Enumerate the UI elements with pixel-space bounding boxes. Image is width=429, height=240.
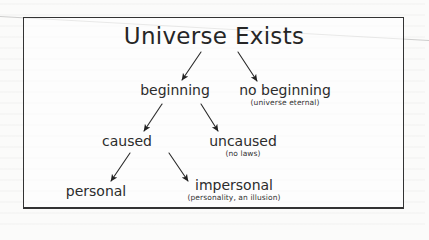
node-no-beginning-note: (universe eternal) bbox=[239, 99, 331, 107]
node-impersonal: impersonal (personality, an illusion) bbox=[187, 178, 280, 202]
arrow-title-to-beginning bbox=[182, 52, 201, 80]
arrow-beginning-to-uncaused bbox=[201, 104, 218, 131]
node-beginning: beginning bbox=[140, 83, 210, 97]
node-caused-label: caused bbox=[102, 134, 152, 148]
arrow-caused-to-personal bbox=[111, 153, 130, 181]
node-caused: caused bbox=[102, 134, 152, 148]
arrow-title-to-no-beginning bbox=[238, 52, 257, 81]
arrow-beginning-to-caused bbox=[144, 104, 162, 131]
node-no-beginning: no beginning (universe eternal) bbox=[239, 83, 331, 107]
node-impersonal-label: impersonal bbox=[187, 178, 280, 192]
arrow-caused-to-impersonal bbox=[169, 153, 188, 181]
node-uncaused-label: uncaused bbox=[209, 134, 277, 148]
node-beginning-label: beginning bbox=[140, 83, 210, 97]
node-no-beginning-label: no beginning bbox=[239, 83, 331, 97]
node-personal: personal bbox=[66, 184, 126, 198]
node-impersonal-note: (personality, an illusion) bbox=[187, 194, 280, 202]
node-uncaused-note: (no laws) bbox=[209, 150, 277, 158]
node-uncaused: uncaused (no laws) bbox=[209, 134, 277, 158]
diagram-title: Universe Exists bbox=[124, 25, 304, 48]
node-personal-label: personal bbox=[66, 184, 126, 198]
